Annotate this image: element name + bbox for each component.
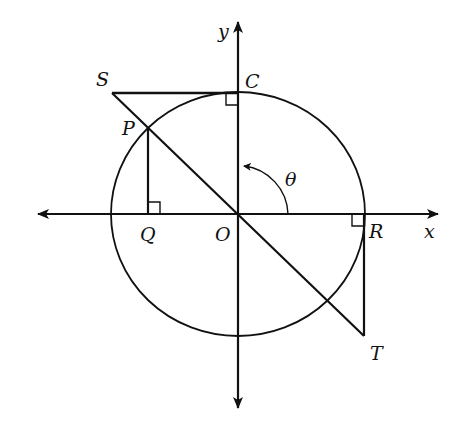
right-angle-R xyxy=(352,214,364,226)
theta-label: θ xyxy=(285,168,297,190)
x-axis-label: x xyxy=(424,220,435,242)
trig-diagram: y x S C P Q O R T θ xyxy=(0,0,459,421)
point-T-label: T xyxy=(370,342,384,364)
y-axis-label: y xyxy=(217,20,229,42)
point-Q-label: Q xyxy=(140,223,156,245)
right-angle-C xyxy=(226,93,238,105)
point-C-label: C xyxy=(245,70,260,92)
point-S-label: S xyxy=(96,68,109,90)
theta-arc xyxy=(244,166,288,214)
right-angle-Q xyxy=(148,202,160,214)
point-R-label: R xyxy=(368,220,383,242)
point-P-label: P xyxy=(121,117,136,139)
point-O-label: O xyxy=(215,223,231,245)
